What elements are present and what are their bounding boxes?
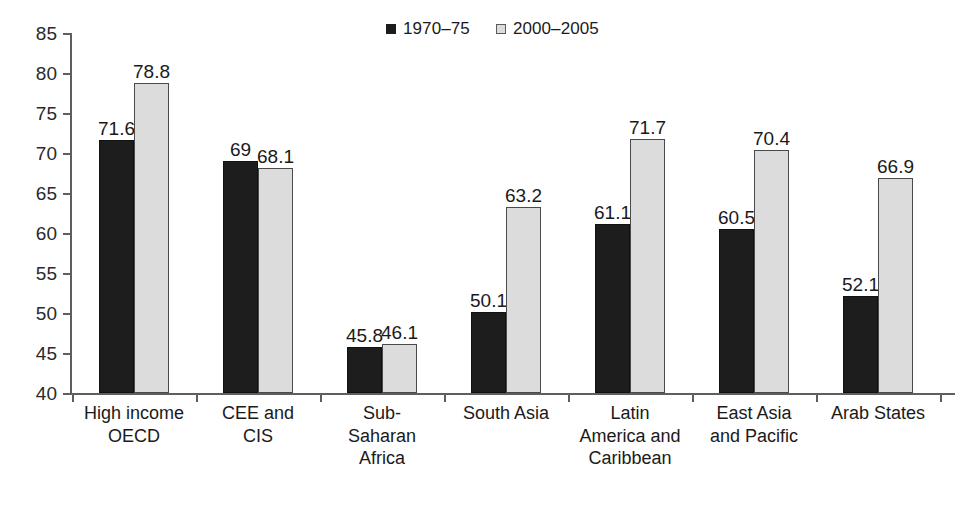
y-tick-label: 45 [36, 343, 57, 365]
x-axis-line [70, 393, 955, 395]
bar-value-label: 60.5 [718, 208, 755, 227]
y-tick: 45 [63, 353, 70, 355]
plot-area: 85807570656055504540 71.678.86968.145.84… [70, 33, 955, 393]
y-tick: 70 [63, 153, 70, 155]
y-tick: 65 [63, 193, 70, 195]
bar-value-label: 63.2 [505, 186, 542, 205]
category-label-line: High income [72, 402, 196, 425]
category-label-line: Latin [568, 402, 692, 425]
category-label: CEE andCIS [196, 402, 320, 447]
bar-series-1970-75: 69 [223, 161, 258, 393]
category-label-line: CIS [196, 425, 320, 448]
bar-series-2000-2005: 71.7 [630, 139, 665, 393]
category-label: East Asiaand Pacific [692, 402, 816, 447]
bar-value-label: 71.7 [629, 118, 666, 137]
y-tick: 40 [63, 393, 70, 395]
bar-series-2000-2005: 66.9 [878, 178, 913, 393]
bar-series-1970-75: 60.5 [719, 229, 754, 393]
category-label-line: Arab States [816, 402, 940, 425]
x-tick [568, 393, 570, 402]
category-label: High incomeOECD [72, 402, 196, 447]
bar-value-label: 52.1 [842, 275, 879, 294]
bar-value-label: 46.1 [381, 323, 418, 342]
category-label-line: OECD [72, 425, 196, 448]
y-tick-label: 60 [36, 223, 57, 245]
category-label-line: East Asia [692, 402, 816, 425]
bar-series-1970-75: 45.8 [347, 347, 382, 393]
category-label-line: Africa [320, 447, 444, 470]
y-axis-line [70, 33, 72, 393]
bar-series-2000-2005: 63.2 [506, 207, 541, 393]
category-label-line: America and [568, 425, 692, 448]
category-label-line: Sub- [320, 402, 444, 425]
x-tick [320, 393, 322, 402]
bar-series-1970-75: 50.1 [471, 312, 506, 393]
category-label: South Asia [444, 402, 568, 425]
category-label: Arab States [816, 402, 940, 425]
bar-series-2000-2005: 46.1 [382, 344, 417, 393]
bar-value-label: 66.9 [877, 157, 914, 176]
bar-value-label: 71.6 [98, 119, 135, 138]
y-tick-label: 50 [36, 303, 57, 325]
bar-value-label: 50.1 [470, 291, 507, 310]
bar-value-label: 69 [230, 140, 251, 159]
y-tick: 75 [63, 113, 70, 115]
y-tick-label: 85 [36, 23, 57, 45]
bar-value-label: 45.8 [346, 326, 383, 345]
bar-value-label: 70.4 [753, 129, 790, 148]
bar-series-2000-2005: 70.4 [754, 150, 789, 393]
y-tick-label: 40 [36, 383, 57, 405]
category-label-line: and Pacific [692, 425, 816, 448]
y-tick-label: 75 [36, 103, 57, 125]
bar-value-label: 68.1 [257, 147, 294, 166]
bar-series-1970-75: 61.1 [595, 224, 630, 393]
bar-series-2000-2005: 78.8 [134, 83, 169, 393]
category-label-line: Caribbean [568, 447, 692, 470]
x-tick [816, 393, 818, 402]
bar-value-label: 61.1 [594, 203, 631, 222]
x-tick [940, 393, 942, 402]
bar-series-2000-2005: 68.1 [258, 168, 293, 393]
y-tick: 85 [63, 33, 70, 35]
bar-series-1970-75: 52.1 [843, 296, 878, 393]
category-label: Sub-SaharanAfrica [320, 402, 444, 470]
y-tick-label: 80 [36, 63, 57, 85]
x-tick [444, 393, 446, 402]
category-label-line: Saharan [320, 425, 444, 448]
y-tick-label: 65 [36, 183, 57, 205]
x-tick [692, 393, 694, 402]
y-tick: 50 [63, 313, 70, 315]
category-label: LatinAmerica andCaribbean [568, 402, 692, 470]
y-tick-label: 70 [36, 143, 57, 165]
bar-value-label: 78.8 [133, 62, 170, 81]
y-tick-label: 55 [36, 263, 57, 285]
x-tick [196, 393, 198, 402]
category-label-line: South Asia [444, 402, 568, 425]
bar-series-1970-75: 71.6 [99, 140, 134, 393]
y-tick: 80 [63, 73, 70, 75]
x-tick [72, 393, 74, 402]
y-tick: 60 [63, 233, 70, 235]
y-tick: 55 [63, 273, 70, 275]
category-label-line: CEE and [196, 402, 320, 425]
bar-chart: 1970–75 2000–2005 85807570656055504540 7… [0, 0, 977, 506]
